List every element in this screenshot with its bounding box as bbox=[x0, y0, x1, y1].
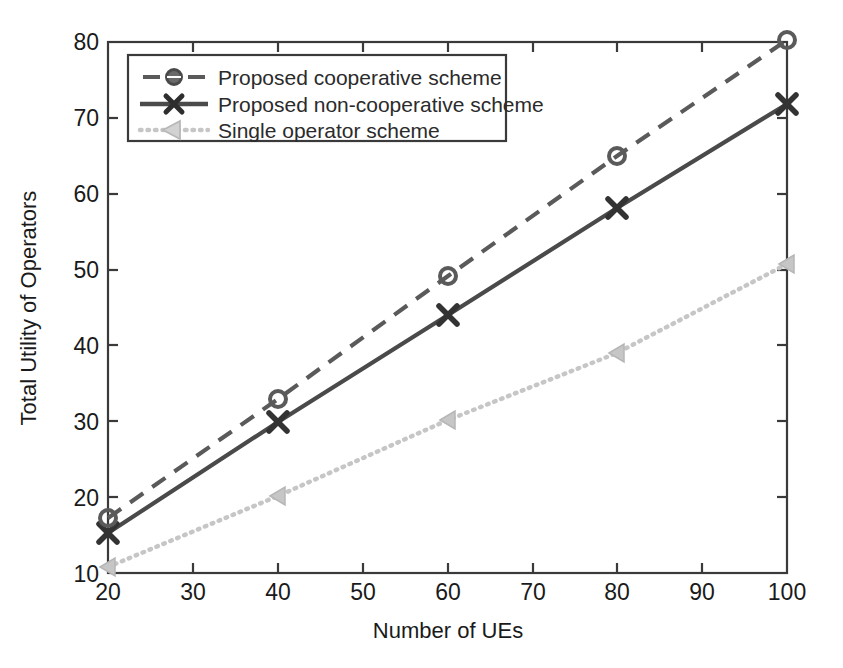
x-axis-title: Number of UEs bbox=[373, 618, 523, 643]
y-tick-label: 60 bbox=[73, 181, 99, 207]
y-tick-label: 80 bbox=[73, 29, 99, 55]
chart-legend: Proposed cooperative scheme Proposed non… bbox=[128, 55, 544, 142]
x-tick-label: 20 bbox=[95, 579, 121, 605]
y-tick-label: 50 bbox=[73, 257, 99, 283]
x-tick-label: 100 bbox=[768, 579, 806, 605]
chart-figure: Total Utility of Operators Number of UEs… bbox=[0, 0, 843, 668]
y-tick-label: 20 bbox=[73, 485, 99, 511]
x-tick-labels: 20 30 40 50 60 70 80 90 100 bbox=[95, 579, 806, 605]
x-tick-label: 60 bbox=[435, 579, 461, 605]
x-tick-label: 80 bbox=[604, 579, 630, 605]
y-tick-label: 30 bbox=[73, 409, 99, 435]
legend-label: Proposed cooperative scheme bbox=[218, 66, 502, 89]
y-tick-label: 40 bbox=[73, 333, 99, 359]
x-tick-label: 90 bbox=[689, 579, 715, 605]
x-tick-label: 30 bbox=[180, 579, 206, 605]
legend-label: Single operator scheme bbox=[218, 119, 440, 142]
x-tick-label: 70 bbox=[520, 579, 546, 605]
legend-label: Proposed non-cooperative scheme bbox=[218, 93, 544, 116]
x-tick-label: 50 bbox=[350, 579, 376, 605]
y-tick-label: 70 bbox=[73, 105, 99, 131]
line-chart-svg: Total Utility of Operators Number of UEs… bbox=[0, 0, 843, 668]
y-axis-title: Total Utility of Operators bbox=[16, 191, 41, 426]
x-tick-label: 40 bbox=[265, 579, 291, 605]
